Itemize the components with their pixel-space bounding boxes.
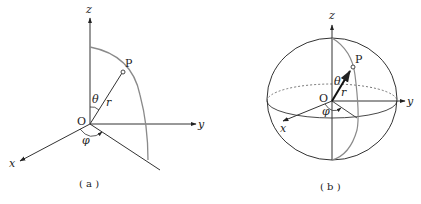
phi-label-b: φ [322,105,330,118]
caption-a: ( a ) [79,178,99,189]
x-axis-label: x [9,157,16,170]
phi-label: φ [82,134,90,147]
y-axis-label-b: y [406,95,414,108]
origin-label: O [77,115,86,128]
theta-label: θ [92,93,99,106]
radius-label: r [106,96,112,109]
x-axis-label-b: x [280,122,287,135]
z-axis-label: z [85,3,92,16]
caption-b: ( b ) [320,181,341,192]
projection-ray [90,124,160,170]
point-p [121,70,125,74]
figure-b: z y x P θ r O φ ( b ) [267,9,414,192]
y-axis-label: y [197,118,205,131]
z-axis-label-b: z [328,9,335,22]
figure-a: z y x P θ r O φ ( a ) [9,3,205,189]
x-axis [20,124,90,161]
theta-angle-arc [90,107,99,110]
origin-label-b: O [319,92,328,105]
projection-ray-b [332,101,357,118]
theta-label-b: θ [334,75,341,88]
radius-label-b: r [341,86,347,99]
spherical-coordinates-diagram: z y x P θ r O φ ( a ) z [0,0,421,204]
point-p-label: P [125,57,133,70]
point-p-label-b: P [355,53,363,66]
